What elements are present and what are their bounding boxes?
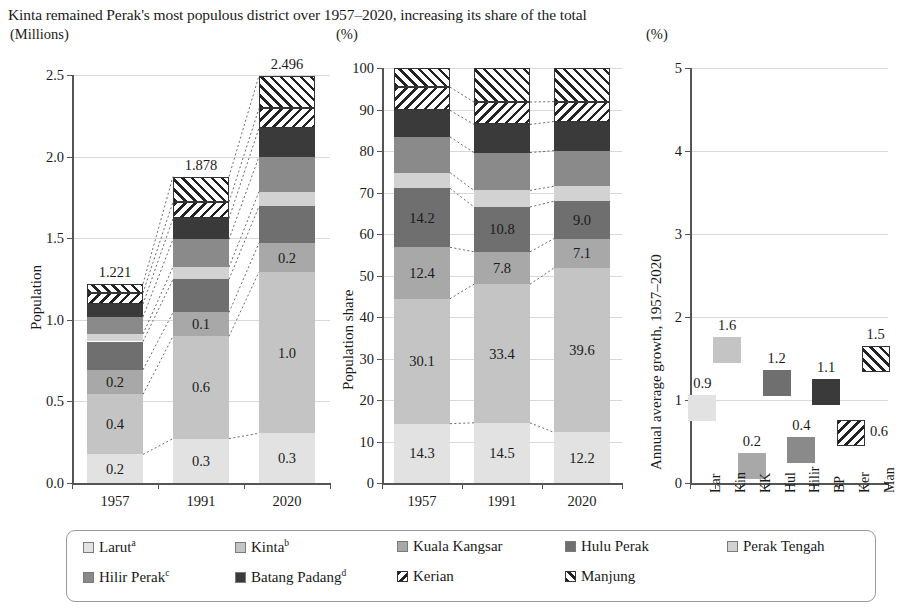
y-axis-tick-label: 3	[642, 226, 682, 243]
y-axis-tick-label: 4	[642, 143, 682, 160]
bar-segment-label: 12.4	[409, 265, 434, 282]
x-axis-line	[382, 483, 622, 485]
y-axis-tick-label: 2.0	[24, 148, 64, 165]
scatter-marker	[862, 346, 890, 372]
legend-label: Kuala Kangsar	[413, 539, 503, 554]
bar-segment	[259, 157, 315, 192]
x-axis-tick-label: 1991	[161, 493, 241, 510]
bar-segment	[87, 284, 143, 293]
legend-item-hulu-perak[interactable]: Hulu Perak	[565, 539, 649, 554]
legend-swatch-icon	[727, 541, 738, 552]
y-axis-tick-label: 10	[334, 433, 374, 450]
bar-segment-label: 39.6	[569, 342, 594, 359]
scatter-marker	[837, 420, 865, 446]
x-axis-tick-label: KK	[758, 473, 774, 493]
y-axis-tick-label: 0	[334, 475, 374, 492]
bar-segment-label: 0.3	[278, 450, 296, 467]
bar-segment	[173, 177, 229, 202]
legend-label: Batang Padangd	[251, 569, 346, 585]
bar-segment-label: 14.5	[489, 444, 514, 461]
x-axis-tick	[72, 483, 73, 489]
bar-total-label: 1.221	[99, 264, 132, 281]
legend-label: Kerian	[413, 569, 454, 584]
bar-segment-label: 0.4	[106, 416, 124, 433]
gridline	[690, 68, 888, 69]
bar-segment	[394, 87, 450, 110]
bar-segment	[259, 192, 315, 207]
bar-segment-label: 14.3	[409, 445, 434, 462]
y-axis-line	[382, 68, 384, 483]
x-axis-tick-label: BP	[832, 476, 848, 493]
bar-segment	[87, 317, 143, 334]
x-axis-tick-label: 1991	[462, 493, 542, 510]
bar-segment	[173, 279, 229, 312]
legend-swatch-icon	[397, 541, 408, 552]
bar-segment-label: 9.0	[573, 211, 591, 228]
y-axis-tick-label: 0.0	[24, 475, 64, 492]
bar-segment	[554, 102, 610, 122]
bar-segment	[259, 206, 315, 243]
x-axis-tick-label: 2020	[542, 493, 622, 510]
unit-label-right: (%)	[646, 26, 668, 43]
bar-segment-label: 10.8	[489, 221, 514, 238]
bar-segment	[259, 108, 315, 128]
x-axis-tick-label: 2020	[247, 493, 327, 510]
bar-segment	[87, 342, 143, 370]
legend-item-kuala-kangsar[interactable]: Kuala Kangsar	[397, 539, 503, 554]
y-axis-tick-label: 60	[334, 226, 374, 243]
bar-segment	[173, 267, 229, 279]
y-axis-tick-label: 50	[334, 267, 374, 284]
legend-swatch-icon	[235, 542, 246, 553]
bar-segment-label: 30.1	[409, 353, 434, 370]
scatter-marker	[688, 395, 716, 421]
scatter-marker	[812, 379, 840, 405]
x-axis-tick-label: Lar	[708, 474, 724, 493]
legend-item-kerian[interactable]: Kerian	[397, 569, 454, 584]
scatter-marker-label: 0.2	[743, 433, 761, 450]
x-axis-tick	[382, 483, 383, 489]
legend-item-perak-tengah[interactable]: Perak Tengah	[727, 539, 825, 554]
bar-segment	[394, 137, 450, 173]
x-axis-tick	[622, 483, 623, 489]
gridline	[690, 400, 888, 401]
scatter-marker-label: 1.2	[768, 350, 786, 367]
scatter-marker-label: 1.5	[867, 326, 885, 343]
legend-item-manjung[interactable]: Manjung	[565, 569, 635, 584]
legend-swatch-icon	[565, 541, 576, 552]
legend-label: Manjung	[581, 569, 635, 584]
x-axis-line	[72, 483, 330, 485]
legend-swatch-icon	[397, 571, 408, 582]
unit-label-mid: (%)	[336, 26, 358, 43]
bar-segment	[259, 76, 315, 109]
bar-segment-label: 7.1	[573, 245, 591, 262]
bar-segment	[474, 68, 530, 102]
legend-item-hilir-perak[interactable]: Hilir Perakc	[83, 569, 169, 585]
bar-segment	[173, 218, 229, 239]
legend-item-larut[interactable]: Laruta	[83, 539, 136, 555]
legend-label: Hulu Perak	[581, 539, 649, 554]
legend-footnote-marker: b	[284, 538, 289, 548]
scatter-marker-label: 0.6	[870, 423, 888, 440]
y-axis-line	[72, 75, 74, 483]
x-axis-tick-label: Man	[882, 467, 897, 493]
scatter-marker	[713, 337, 741, 363]
y-axis-title: Population share	[340, 290, 357, 390]
legend-label: Perak Tengah	[743, 539, 825, 554]
bar-segment-label: 14.2	[409, 209, 434, 226]
bar-segment-label: 33.4	[489, 345, 514, 362]
legend-item-batang-padang[interactable]: Batang Padangd	[235, 569, 346, 585]
legend-item-kinta[interactable]: Kintab	[235, 539, 289, 555]
x-axis-tick-label: Hul	[783, 472, 799, 493]
y-axis-tick-label: 2.5	[24, 67, 64, 84]
bar-segment-label: 0.2	[278, 249, 296, 266]
legend-swatch-icon	[235, 572, 246, 583]
legend-swatch-icon	[565, 571, 576, 582]
x-axis-tick-label: Ker	[857, 472, 873, 493]
legend-label: Hilir Perakc	[99, 569, 169, 585]
bar-segment	[87, 293, 143, 304]
bar-segment	[87, 334, 143, 342]
scatter-marker	[787, 437, 815, 463]
bar-segment	[554, 186, 610, 201]
legend-swatch-icon	[83, 572, 94, 583]
bar-segment	[259, 128, 315, 157]
